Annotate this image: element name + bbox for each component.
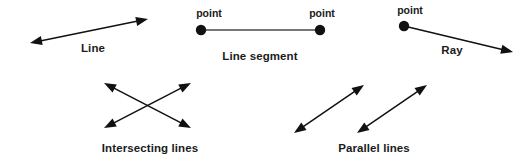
figure-line: Line bbox=[30, 17, 148, 54]
line-segment-endpoint-dot-left bbox=[196, 25, 206, 35]
line-arrowhead-end bbox=[135, 17, 148, 26]
intersecting-line-a-arrowhead-start bbox=[104, 83, 117, 93]
parallel-line-b-arrowhead-start bbox=[357, 122, 369, 133]
intersecting-line-b-arrowhead-start bbox=[104, 118, 117, 128]
line-segment-label: Line segment bbox=[222, 50, 297, 62]
parallel-lines-label: Parallel lines bbox=[338, 142, 410, 154]
intersecting-line-b-arrowhead-end bbox=[178, 83, 191, 93]
ray-arrowhead-end bbox=[500, 45, 513, 54]
line-segment-point-label-left: point bbox=[196, 7, 222, 19]
ray-point-label: point bbox=[397, 4, 423, 16]
figure-ray: point Ray bbox=[397, 4, 513, 56]
geometry-diagram: Line point point Line segment point Ray bbox=[0, 0, 527, 165]
figure-intersecting-lines: Intersecting lines bbox=[102, 83, 198, 154]
line-arrowhead-start bbox=[30, 36, 43, 45]
parallel-line-b-shaft bbox=[364, 90, 419, 128]
intersecting-lines-label: Intersecting lines bbox=[102, 142, 198, 154]
figure-line-segment: point point Line segment bbox=[196, 7, 336, 62]
parallel-line-b-arrowhead-end bbox=[415, 85, 427, 96]
intersecting-line-a-arrowhead-end bbox=[178, 118, 191, 128]
figure-parallel-lines: Parallel lines bbox=[294, 85, 427, 154]
line-segment-point-label-right: point bbox=[309, 7, 335, 19]
line-label: Line bbox=[81, 42, 105, 54]
parallel-line-a-arrowhead-start bbox=[294, 122, 306, 133]
line-shaft bbox=[39, 21, 139, 41]
geometry-illustration: Line point point Line segment point Ray bbox=[0, 0, 527, 165]
ray-endpoint-dot bbox=[399, 21, 409, 31]
ray-label: Ray bbox=[441, 44, 463, 56]
line-segment-endpoint-dot-right bbox=[315, 25, 325, 35]
parallel-line-a-shaft bbox=[301, 90, 356, 128]
parallel-line-a-arrowhead-end bbox=[352, 85, 364, 96]
